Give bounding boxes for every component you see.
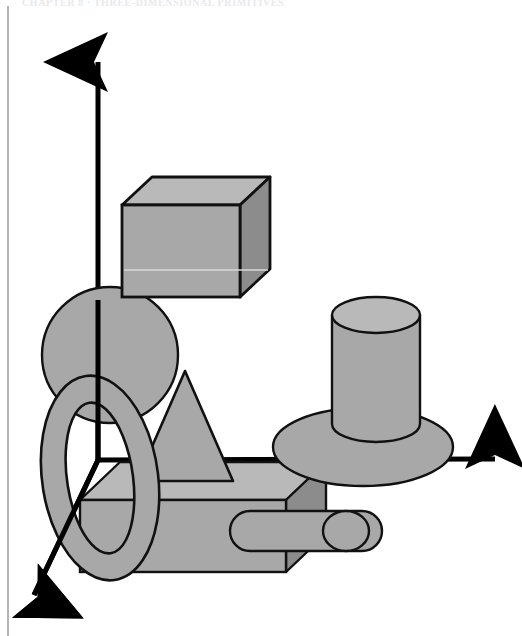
cube-front-face [122,205,240,297]
figure-page: CHAPTER 8 · THREE-DIMENSIONAL PRIMITIVES [0,0,522,636]
cube-shape [122,177,270,297]
capsule-shape [230,511,382,551]
three-dimensional-primitives-figure [0,0,522,636]
cylinder-shape [332,297,420,442]
capsule-end-cap [323,511,369,551]
cylinder-top-cap [332,297,420,333]
